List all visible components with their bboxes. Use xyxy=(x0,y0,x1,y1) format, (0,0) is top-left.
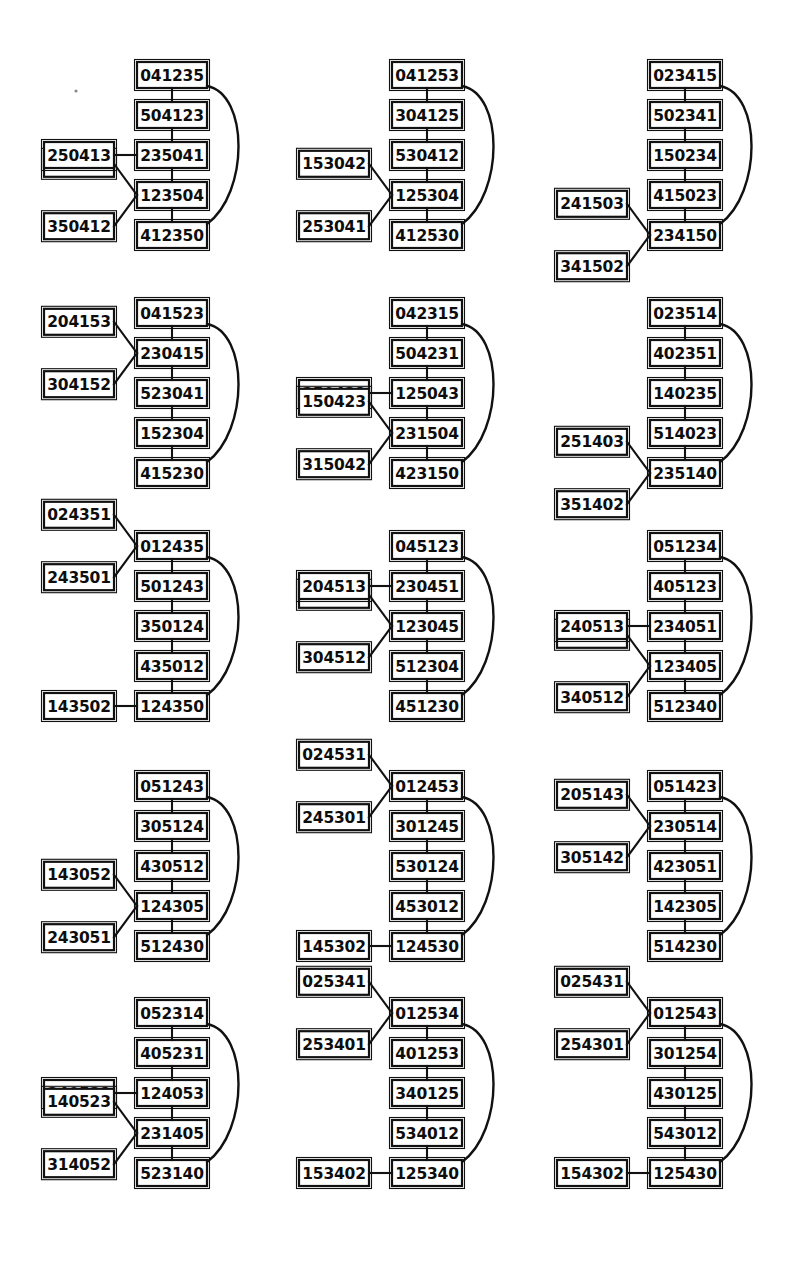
node-label: 143052 xyxy=(47,866,111,884)
node-label: 423150 xyxy=(395,465,459,483)
node-label: 340125 xyxy=(395,1085,459,1103)
chain-node: 523140 xyxy=(135,1158,210,1189)
chain-node: 051423 xyxy=(648,771,723,802)
chain-node: 412530 xyxy=(390,220,465,251)
side-edge xyxy=(114,1102,137,1133)
chain-node: 150234 xyxy=(648,140,723,171)
chain-node: 231405 xyxy=(135,1118,210,1149)
node-label: 235140 xyxy=(653,465,717,483)
node-label: 125430 xyxy=(653,1165,717,1183)
chain-node: 530124 xyxy=(390,851,465,882)
node-label: 230514 xyxy=(653,818,717,836)
side-edge xyxy=(114,906,137,937)
node-label: 051234 xyxy=(653,538,717,556)
chain-node: 124053 xyxy=(135,1078,210,1109)
node-label: 412350 xyxy=(140,227,204,245)
side-node: 304152 xyxy=(42,369,117,400)
diagram-layer: 0412355041232350411235044123501350423504… xyxy=(42,60,752,1189)
diagram-r1c1: 0412355041232350411235044123501350423504… xyxy=(42,60,239,251)
diagram-r3c2: 0451232304511230455123044512301304523045… xyxy=(297,531,494,722)
side-edge xyxy=(627,666,650,697)
diagram-r2c2: 0423155042311250432315044231502504311504… xyxy=(297,298,494,489)
side-node: 253401 xyxy=(297,1029,372,1060)
node-label: 415230 xyxy=(140,465,204,483)
chain-arc-edge xyxy=(720,797,752,935)
node-label: 045123 xyxy=(395,538,459,556)
node-label: 423051 xyxy=(653,858,717,876)
chain-node: 453012 xyxy=(390,891,465,922)
chain-node: 041253 xyxy=(390,60,465,91)
node-label: 235041 xyxy=(140,147,204,165)
node-label: 512340 xyxy=(653,698,717,716)
node-label: 125043 xyxy=(395,385,459,403)
node-label: 204513 xyxy=(302,578,366,596)
node-label: 152304 xyxy=(140,425,204,443)
node-label: 124530 xyxy=(395,938,459,956)
node-label: 025431 xyxy=(560,973,624,991)
side-node: 253041 xyxy=(297,211,372,242)
node-label: 142305 xyxy=(653,898,717,916)
side-node: 145302 xyxy=(297,931,372,962)
side-node: 025431 xyxy=(555,966,630,997)
chain-arc-edge xyxy=(720,1024,752,1162)
chain-node: 415230 xyxy=(135,458,210,489)
side-node: 205143 xyxy=(555,779,630,810)
node-label: 251403 xyxy=(560,433,624,451)
chain-node: 230415 xyxy=(135,338,210,369)
node-label: 153402 xyxy=(302,1165,366,1183)
diagram-canvas: 0412355041232350411235044123501350423504… xyxy=(0,0,807,1263)
chain-node: 125430 xyxy=(648,1158,723,1189)
side-node: 240513 xyxy=(555,611,630,642)
chain-node: 534012 xyxy=(390,1118,465,1149)
chain-node: 012534 xyxy=(390,998,465,1029)
node-label: 254301 xyxy=(560,1036,624,1054)
side-edge xyxy=(627,235,650,266)
diagram-r4c3: 0514232305144230511423055142302051433051… xyxy=(555,771,752,962)
diagram-r4c2: 0124533012455301244530121245301453020245… xyxy=(297,739,494,961)
node-label: 350124 xyxy=(140,618,204,636)
chain-node: 502341 xyxy=(648,100,723,131)
chain-node: 123405 xyxy=(648,651,723,682)
chain-arc-edge xyxy=(462,324,494,462)
node-label: 543012 xyxy=(653,1125,717,1143)
node-label: 523041 xyxy=(140,385,204,403)
node-label: 230451 xyxy=(395,578,459,596)
node-label: 041235 xyxy=(140,67,204,85)
node-label: 253401 xyxy=(302,1036,366,1054)
chain-node: 142305 xyxy=(648,891,723,922)
side-node: 250413 xyxy=(42,140,117,171)
chain-node: 301245 xyxy=(390,811,465,842)
chain-node: 305124 xyxy=(135,811,210,842)
chain-node: 451230 xyxy=(390,691,465,722)
node-label: 124053 xyxy=(140,1085,204,1103)
chain-node: 430512 xyxy=(135,851,210,882)
side-node: 341502 xyxy=(555,251,630,282)
node-label: 024531 xyxy=(302,746,366,764)
node-label: 125340 xyxy=(395,1165,459,1183)
node-label: 125304 xyxy=(395,187,459,205)
chain-node: 041523 xyxy=(135,298,210,329)
chain-node: 412350 xyxy=(135,220,210,251)
chain-arc-edge xyxy=(462,557,494,695)
side-edge xyxy=(369,1013,392,1044)
chain-node: 235041 xyxy=(135,140,210,171)
node-label: 231504 xyxy=(395,425,459,443)
side-node: 251403 xyxy=(555,426,630,457)
node-label: 253041 xyxy=(302,218,366,236)
node-label: 041253 xyxy=(395,67,459,85)
chain-arc-edge xyxy=(720,86,752,224)
side-node: 351402 xyxy=(555,489,630,520)
node-label: 051243 xyxy=(140,778,204,796)
chain-node: 230514 xyxy=(648,811,723,842)
side-edge xyxy=(369,626,392,657)
side-node: 143052 xyxy=(42,859,117,890)
chain-node: 423150 xyxy=(390,458,465,489)
chain-node: 234150 xyxy=(648,220,723,251)
side-edge xyxy=(114,164,137,195)
side-edge xyxy=(369,195,392,226)
diagram-r1c3: 0234155023411502344150232341502415033415… xyxy=(555,60,752,282)
node-label: 430125 xyxy=(653,1085,717,1103)
node-label: 012453 xyxy=(395,778,459,796)
chain-node: 123045 xyxy=(390,611,465,642)
chain-arc-edge xyxy=(720,324,752,462)
